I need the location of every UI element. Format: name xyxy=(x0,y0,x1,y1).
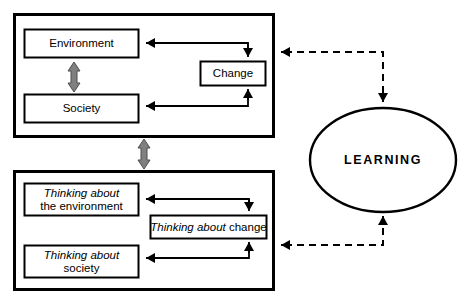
learning-label: LEARNING xyxy=(310,145,456,175)
thinking-change-box[interactable] xyxy=(151,216,267,239)
frames-link-icon xyxy=(138,139,150,169)
learning-label-text: LEARNING xyxy=(344,153,422,167)
environment-box[interactable] xyxy=(25,30,139,58)
society-box[interactable] xyxy=(25,95,139,123)
bottom-frame-learning-dashed-connector xyxy=(285,216,383,245)
diagram-canvas: Environment Society Change Thinking abou… xyxy=(0,0,467,307)
thinking-environment-box[interactable] xyxy=(25,184,139,216)
change-box[interactable] xyxy=(201,62,266,86)
top-frame-learning-dashed-connector xyxy=(285,52,383,102)
thinking-society-box[interactable] xyxy=(25,246,139,278)
